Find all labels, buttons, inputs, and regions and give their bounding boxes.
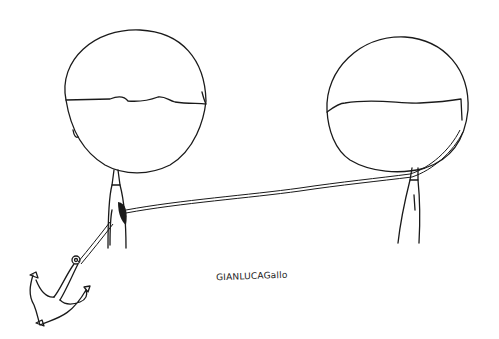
anchor-arms [30, 275, 87, 325]
rope [78, 130, 463, 264]
right-figure [327, 37, 468, 243]
right-bangs [327, 99, 462, 120]
anchor [30, 256, 90, 326]
right-body [398, 180, 420, 243]
anchor-shank [54, 264, 78, 300]
right-head [327, 37, 468, 172]
illustration-canvas [0, 0, 499, 339]
left-knot [118, 202, 127, 225]
left-bangs [66, 92, 206, 104]
left-neck [112, 170, 120, 185]
left-figure [65, 30, 206, 248]
anchor-ring [72, 256, 80, 264]
